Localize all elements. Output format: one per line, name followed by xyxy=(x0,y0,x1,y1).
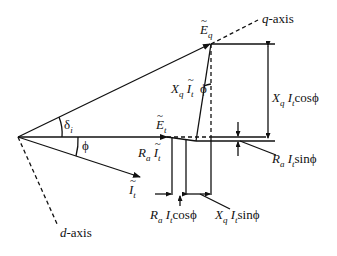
xq-it-cos-label: Xq Itcosϕ xyxy=(272,91,319,104)
delta-arc xyxy=(59,117,62,137)
d-axis-label: d-axis xyxy=(60,226,92,239)
phi-arc xyxy=(76,137,78,156)
delta-label: δi xyxy=(64,118,73,131)
ra-it-sin-label: Ra Itsinϕ xyxy=(272,152,317,165)
q-axis-label: q-axis xyxy=(262,12,294,25)
ra-it-label: Ra ~It xyxy=(138,146,161,159)
ra-it-cos-label: Ra Itcosϕ xyxy=(150,208,197,221)
d-axis-line xyxy=(18,137,58,226)
phasor-diagram: q-axis d-axis ~Eq ~Et ~It δi ϕ ϕ Xq ~It … xyxy=(0,0,337,256)
ra-sin-leader xyxy=(240,141,276,155)
phi-top-label: ϕ xyxy=(200,82,207,95)
it-phasor xyxy=(18,137,140,177)
eq-label: ~Eq xyxy=(200,23,212,36)
phi-origin-label: ϕ xyxy=(82,139,89,152)
xq-it-sin-label: Xq Itsinϕ xyxy=(215,208,260,221)
it-label: ~It xyxy=(129,183,136,196)
xq-it-label: Xq ~It xyxy=(171,82,194,95)
q-axis-line xyxy=(211,20,258,44)
et-label: ~Et xyxy=(156,118,166,131)
